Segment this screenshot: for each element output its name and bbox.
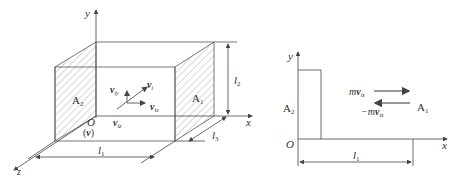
- v-iz-label: viz: [113, 117, 122, 129]
- y-axis-2d-label: y: [287, 50, 293, 62]
- x-axis-2d-label: x: [441, 139, 447, 151]
- axes-3d: [14, 10, 252, 170]
- v-iy-label: viy: [110, 84, 119, 96]
- v-ix-label: vix: [150, 101, 159, 113]
- z-axis-label: z: [16, 166, 21, 177]
- wall-a2-rect: [298, 70, 321, 139]
- origin-2d-label: O: [286, 138, 294, 150]
- y-axis-label: y: [84, 7, 90, 19]
- momentum-arrows: [374, 91, 410, 103]
- gas-molecule-box-diagram: y x z O (v) A2 A1 vi viy vix viz l1 l2 l…: [0, 0, 455, 181]
- face-a1-2d-label: A1: [417, 101, 429, 115]
- l3-label: l3: [212, 129, 219, 143]
- l1-label: l1: [98, 144, 105, 158]
- momentum-backward-label: −mvix: [361, 106, 384, 118]
- x-axis-label: x: [245, 116, 251, 128]
- v-i-label: vi: [147, 79, 153, 91]
- volume-label: (v): [83, 127, 94, 139]
- velocity-vectors: [117, 87, 147, 109]
- face-a2-2d-label: A2: [283, 102, 295, 116]
- l2-label: l2: [234, 74, 241, 88]
- l1-2d-label: l1: [353, 149, 360, 163]
- momentum-forward-label: mvix: [349, 86, 365, 98]
